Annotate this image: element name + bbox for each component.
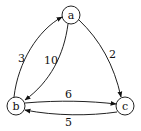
edge-b-to-c: 6 bbox=[25, 88, 116, 104]
arrow-icon bbox=[25, 101, 116, 104]
edge-a-to-c: 2 bbox=[79, 20, 121, 97]
node-c: c bbox=[116, 97, 134, 115]
graph-diagram: 3 10 2 6 5 a b c bbox=[0, 0, 141, 131]
edge-a-to-b: 10 bbox=[25, 24, 68, 100]
node-b: b bbox=[7, 97, 25, 115]
edge-weight-a-c: 2 bbox=[109, 48, 116, 61]
edge-weight-a-b: 10 bbox=[44, 54, 58, 67]
edge-weight-b-c: 6 bbox=[65, 88, 72, 101]
node-c-label: c bbox=[122, 100, 128, 113]
edge-c-to-b: 5 bbox=[25, 110, 117, 129]
edge-weight-b-a: 3 bbox=[18, 52, 25, 65]
arrow-icon bbox=[25, 110, 117, 115]
node-a-label: a bbox=[68, 9, 75, 22]
node-b-label: b bbox=[12, 100, 19, 113]
edge-weight-c-b: 5 bbox=[65, 116, 72, 129]
node-a: a bbox=[62, 6, 80, 24]
